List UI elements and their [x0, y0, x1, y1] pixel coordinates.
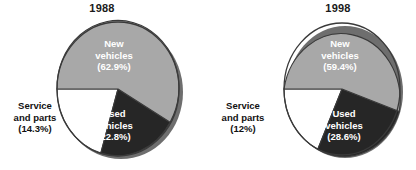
pie-chart-pair: 1988 New vehicles (62.9%) Used vehicles … [0, 0, 416, 170]
pie-label-new-vehicles-1998: New vehicles (59.4%) [300, 38, 380, 73]
pie-label-line-2: vehicles [300, 50, 380, 62]
pie-label-line-2: and parts [0, 112, 72, 124]
pie-label-line-1: Used [304, 108, 384, 120]
pie-chart-1998: 1998 [208, 0, 416, 170]
pie-label-line-2: vehicles [74, 50, 154, 62]
pie-label-used-vehicles-1998: Used vehicles (28.6%) [304, 108, 384, 143]
pie-label-line-1: Service [204, 100, 282, 112]
pie-label-percent: (14.3%) [0, 123, 72, 135]
pie-label-percent: (62.9%) [74, 61, 154, 73]
pie-graphic-1988 [0, 0, 208, 170]
pie-graphic-1998 [208, 0, 416, 170]
pie-label-line-2: and parts [204, 112, 282, 124]
pie-label-new-vehicles-1988: New vehicles (62.9%) [74, 38, 154, 73]
pie-label-percent: (12%) [204, 123, 282, 135]
pie-label-line-1: Service [0, 100, 72, 112]
pie-label-line-1: Used [74, 108, 154, 120]
pie-label-service-and-parts-1998: Service and parts (12%) [204, 100, 282, 135]
pie-label-percent: (28.6%) [304, 131, 384, 143]
pie-label-percent: (59.4%) [300, 61, 380, 73]
pie-chart-1988: 1988 New vehicles (62.9%) Used vehicles … [0, 0, 208, 170]
pie-label-line-2: vehicles [74, 120, 154, 132]
pie-label-service-and-parts-1988: Service and parts (14.3%) [0, 100, 72, 135]
pie-label-used-vehicles-1988: Used vehicles (22.8%) [74, 108, 154, 143]
pie-label-percent: (22.8%) [74, 131, 154, 143]
pie-label-line-1: New [74, 38, 154, 50]
pie-label-line-2: vehicles [304, 120, 384, 132]
pie-label-line-1: New [300, 38, 380, 50]
